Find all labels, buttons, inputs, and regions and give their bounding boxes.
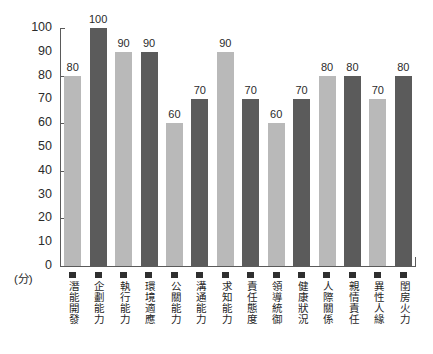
bar-value-label: 70 [372,84,384,96]
category-label-text: 異性人緣 [372,281,384,325]
bar-item: 70 [191,28,208,266]
category-label-text: 親情責任 [347,281,359,325]
bar-item: 80 [64,28,81,266]
category-label-text: 求知能力 [220,281,232,325]
bar [369,99,386,266]
x-axis-category-labels: 潛能開發企劃能力執行能力環境適應公關能力溝通能力求知能力責任態度領導統御健康狀況… [60,272,416,354]
category-marker-icon [273,272,280,278]
category-label-item: 人際關係 [314,272,339,325]
category-marker-icon [196,272,203,278]
bar-value-label: 100 [89,13,107,25]
category-label-item: 領導統御 [263,272,288,325]
category-label-text: 健康狀況 [296,281,308,325]
category-label-text: 人際關係 [321,281,333,325]
category-label-item: 執行能力 [111,272,136,325]
bar-value-label: 90 [219,37,231,49]
y-axis-tick-label: 40 [38,163,52,178]
category-label-text: 執行能力 [118,281,130,325]
bar-item: 60 [166,28,183,266]
y-axis-tick-label: 70 [38,91,52,106]
bar [166,123,183,266]
bar [344,76,361,266]
bar [319,76,336,266]
bar [293,99,310,266]
bar-value-label: 90 [117,37,129,49]
bar-value-label: 80 [67,61,79,73]
bar [115,52,132,266]
category-label-text: 溝通能力 [194,281,206,325]
bar-value-label: 80 [346,61,358,73]
category-label-item: 親情責任 [340,272,365,325]
bar-chart: 1009080706050403020100 80100909060709070… [0,0,433,354]
bar-value-label: 60 [168,108,180,120]
category-marker-icon [349,272,356,278]
category-marker-icon [222,272,229,278]
category-label-item: 潛能開發 [60,272,85,325]
category-label-text: 領導統御 [270,281,282,325]
category-label-text: 公關能力 [169,281,181,325]
category-label-item: 異性人緣 [365,272,390,325]
bar-item: 100 [90,28,107,266]
y-axis-tick-label: 20 [38,210,52,225]
bar-series: 80100909060709070607080807080 [60,28,416,266]
x-axis-baseline [60,266,416,267]
y-axis-tick-label: 90 [38,44,52,59]
category-label-text: 潛能開發 [67,281,79,325]
bar-value-label: 60 [270,108,282,120]
category-label-item: 環境適應 [136,272,161,325]
bar [64,76,81,266]
y-axis-tick-label: 60 [38,115,52,130]
bar-item: 80 [395,28,412,266]
category-marker-icon [145,272,152,278]
category-label-text: 責任態度 [245,281,257,325]
y-axis-tick-label: 80 [38,68,52,83]
category-label-item: 求知能力 [213,272,238,325]
category-marker-icon [95,272,102,278]
y-axis-tick-mark [60,266,65,267]
category-label-item: 公關能力 [162,272,187,325]
bar-value-label: 80 [397,61,409,73]
bar-item: 70 [293,28,310,266]
category-label-text: 企劃能力 [92,281,104,325]
category-marker-icon [298,272,305,278]
category-label-text: 環境適應 [143,281,155,325]
category-label-item: 責任態度 [238,272,263,325]
bar [395,76,412,266]
category-marker-icon [247,272,254,278]
bar-item: 90 [141,28,158,266]
category-marker-icon [69,272,76,278]
bar [217,52,234,266]
bar-item: 70 [242,28,259,266]
bar-value-label: 70 [194,84,206,96]
y-axis-tick-label: 10 [38,234,52,249]
y-axis-tick-label: 50 [38,139,52,154]
bar [141,52,158,266]
category-label-item: 閨房火力 [391,272,416,325]
bar-item: 80 [344,28,361,266]
bar-item: 60 [268,28,285,266]
bar [191,99,208,266]
bar [90,28,107,266]
category-label-item: 健康狀況 [289,272,314,325]
category-marker-icon [323,272,330,278]
bar-item: 80 [319,28,336,266]
bar [268,123,285,266]
bar-value-label: 70 [245,84,257,96]
bar-item: 90 [217,28,234,266]
bar-value-label: 70 [295,84,307,96]
y-axis-tick-label: 100 [31,20,52,35]
category-label-text: 閨房火力 [398,281,410,325]
bar-item: 70 [369,28,386,266]
category-marker-icon [120,272,127,278]
category-marker-icon [171,272,178,278]
bar [242,99,259,266]
y-axis-tick-label: 0 [45,258,52,273]
category-label-item: 企劃能力 [85,272,110,325]
bar-value-label: 90 [143,37,155,49]
category-marker-icon [400,272,407,278]
bar-item: 90 [115,28,132,266]
y-axis-tick-label: 30 [38,187,52,202]
category-marker-icon [374,272,381,278]
category-label-item: 溝通能力 [187,272,212,325]
y-axis-unit-label: (分) [14,270,33,286]
